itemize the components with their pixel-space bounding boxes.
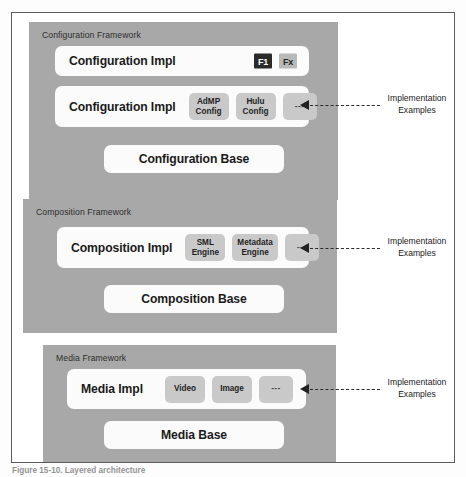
chip-line1: Image — [220, 384, 244, 394]
chip-line2: Engine — [241, 248, 268, 258]
configuration-impl-chips: AdMP Config Hulu Config --- — [189, 93, 317, 120]
chip-line2: Config — [243, 107, 269, 117]
dashed-connector — [310, 389, 380, 390]
configuration-interface-bar: Configuration Impl F1 Fx — [55, 46, 309, 76]
composition-impl-chips: SML Engine Metadata Engine --- — [185, 234, 319, 261]
framework-title-composition: Composition Framework — [36, 207, 131, 217]
callout-line-1: Implementation — [380, 93, 454, 105]
chip-line1: SML — [197, 238, 214, 248]
chip-line1: Metadata — [237, 238, 273, 248]
chip-line1: --- — [271, 384, 281, 394]
framework-panel-composition: Composition Framework Composition Impl S… — [23, 199, 337, 333]
configuration-impl-bar: Configuration Impl AdMP Config Hulu Conf… — [55, 86, 309, 127]
chip-line2: Config — [196, 107, 222, 117]
configuration-base-label: Configuration Base — [139, 152, 250, 166]
chip-image: Image — [212, 376, 252, 403]
media-base-bar: Media Base — [104, 421, 284, 449]
composition-impl-bar: Composition Impl SML Engine Metadata Eng… — [57, 227, 309, 268]
framework-panel-media: Media Framework Media Impl Video Image -… — [43, 345, 336, 462]
callout-line-1: Implementation — [380, 377, 454, 389]
framework-panel-configuration: Configuration Framework Configuration Im… — [29, 22, 338, 200]
chip-line1: Video — [174, 384, 196, 394]
composition-impl-label: Composition Impl — [71, 241, 172, 255]
chip-admp-config: AdMP Config — [189, 93, 229, 120]
callout-line-2: Examples — [380, 248, 454, 260]
configuration-interface-label: Configuration Impl — [69, 54, 176, 68]
callout-text-composition: Implementation Examples — [380, 236, 454, 259]
chip-line2: Engine — [192, 248, 219, 258]
chip-metadata-engine: Metadata Engine — [232, 234, 278, 261]
chip-sml-engine: SML Engine — [185, 234, 225, 261]
arrow-left-icon — [300, 100, 309, 110]
media-impl-chips: Video Image --- — [165, 376, 293, 403]
chip-line1: AdMP — [197, 97, 220, 107]
framework-title-media: Media Framework — [56, 353, 126, 363]
chip-line1: Hulu — [246, 97, 264, 107]
arrow-left-icon — [300, 384, 309, 394]
callout-line-2: Examples — [380, 389, 454, 401]
chip-video: Video — [165, 376, 205, 403]
callout-text-configuration: Implementation Examples — [380, 93, 454, 116]
badge-f1: F1 — [254, 54, 272, 69]
configuration-badges: F1 Fx — [254, 54, 297, 69]
composition-base-bar: Composition Base — [104, 285, 284, 313]
media-impl-bar: Media Impl Video Image --- — [67, 369, 306, 409]
arrow-left-icon — [300, 243, 309, 253]
media-impl-label: Media Impl — [81, 382, 143, 396]
callout-text-media: Implementation Examples — [380, 377, 454, 400]
callout-line-2: Examples — [380, 105, 454, 117]
chip-hulu-config: Hulu Config — [236, 93, 276, 120]
media-base-label: Media Base — [161, 428, 227, 442]
callout-line-1: Implementation — [380, 236, 454, 248]
badge-fx: Fx — [279, 54, 297, 69]
figure-caption: Figure 15-10. Layered architecture — [12, 466, 145, 475]
configuration-base-bar: Configuration Base — [104, 145, 284, 173]
configuration-impl-label: Configuration Impl — [69, 100, 176, 114]
chip-ellipsis: --- — [259, 376, 293, 403]
dashed-connector — [310, 105, 380, 106]
framework-title-configuration: Configuration Framework — [42, 30, 141, 40]
figure-frame: Configuration Framework Configuration Im… — [11, 12, 455, 463]
composition-base-label: Composition Base — [141, 292, 246, 306]
dashed-connector — [310, 248, 380, 249]
